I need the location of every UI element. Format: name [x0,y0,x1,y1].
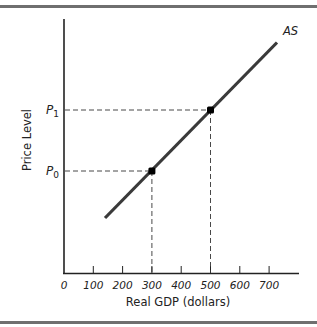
y-axis-title: Price Level [20,109,34,171]
point-p1 [207,107,214,114]
x-tick-label: 600 [230,279,250,291]
as-curve [105,43,277,219]
as-curve-label: AS [282,24,298,38]
x-tick-label: 100 [83,279,103,291]
p1-label: P1 [46,103,59,119]
x-axis-title: Real GDP (dollars) [126,295,230,309]
x-ticks [93,266,269,273]
x-tick-label: 500 [200,279,220,291]
x-tick-label: 700 [259,279,279,291]
x-tick-label: 400 [171,279,191,291]
chart-canvas: 0 100 200 300 400 500 600 700 Real GDP (… [0,0,317,327]
point-p0 [148,168,155,175]
x-tick-label: 300 [142,279,162,291]
p0-label: P0 [46,164,59,180]
x-tick-label: 200 [113,279,133,291]
x-tick-label: 0 [61,279,68,291]
